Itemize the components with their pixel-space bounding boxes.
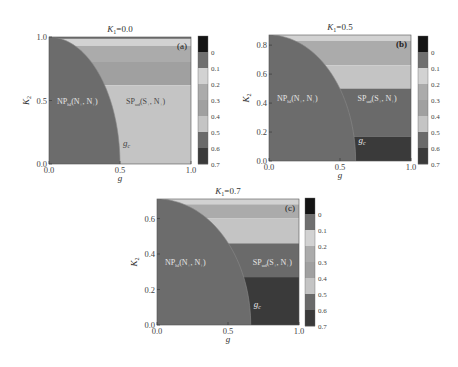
np-phase-label: NPhl(N+, N+) [165, 258, 206, 268]
y-tick-label: 0.4 [144, 249, 155, 259]
colorbar-tick-label: 0.3 [318, 259, 327, 267]
colorbar-segment [198, 148, 208, 164]
sp-phase-label: SPud(S+, N+) [358, 94, 397, 104]
x-axis-label: g [226, 334, 231, 344]
sp-phase-label: SPud(S+, N+) [126, 97, 165, 107]
y-tick-label: 0.2 [144, 285, 155, 295]
panel-label: (b) [396, 39, 407, 49]
panel-c: K1=0.7(c)0.00.51.0g0.00.20.40.6K2NPhl(N+… [129, 186, 327, 344]
colorbar-tick-label: 0.5 [211, 129, 220, 137]
colorbar-tick-label: 0 [431, 49, 435, 57]
colorbar-segment [305, 230, 315, 246]
colorbar-tick-label: 0.4 [211, 113, 220, 121]
colorbar-segment [418, 36, 428, 52]
y-tick-label: 1.0 [36, 32, 47, 42]
sp-phase-label: SPud(S+, N+) [253, 258, 292, 268]
colorbar-tick-label: 0.1 [318, 227, 327, 235]
colorbar-tick-label: 0 [211, 49, 215, 57]
colorbar-segment [418, 116, 428, 132]
colorbar-segment [418, 68, 428, 84]
colorbar-tick-label: 0.1 [211, 65, 220, 73]
colorbar-segment [305, 294, 315, 310]
y-tick-label: 0.8 [256, 40, 267, 50]
x-tick-label: 1.0 [406, 162, 417, 172]
y-tick-label: 0.2 [256, 127, 267, 137]
panel-label: (c) [285, 203, 295, 213]
colorbar-tick-label: 0.4 [318, 275, 327, 283]
colorbar-segment [305, 262, 315, 278]
x-tick-label: 1.0 [294, 326, 305, 336]
colorbar-tick-label: 0.7 [318, 323, 327, 331]
np-phase-label: NPhl(N+, N+) [277, 94, 318, 104]
x-axis-label: g [338, 170, 343, 180]
colorbar-segment [305, 246, 315, 262]
y-tick-label: 0.0 [36, 159, 47, 169]
colorbar-segment [305, 310, 315, 326]
colorbar-tick-label: 0.7 [211, 161, 220, 169]
colorbar-segment [418, 84, 428, 100]
np-phase-label: NPhl(N+, N+) [57, 97, 98, 107]
x-axis-label: g [118, 173, 123, 183]
colorbar-tick-label: 0.2 [318, 243, 327, 251]
panel-title: K1=0.0 [106, 24, 133, 35]
colorbar-segment [418, 132, 428, 148]
panel-title: K1=0.5 [326, 22, 353, 33]
panel-label: (a) [177, 41, 187, 51]
panel-title: K1=0.7 [214, 186, 241, 197]
colorbar-tick-label: 0.7 [431, 161, 440, 169]
colorbar-segment [305, 198, 315, 214]
colorbar-tick-label: 0.3 [431, 97, 440, 105]
colorbar-tick-label: 0.6 [318, 307, 327, 315]
colorbar-tick-label: 0.5 [318, 291, 327, 299]
colorbar-tick-label: 0.6 [431, 145, 440, 153]
y-tick-label: 0.6 [144, 214, 155, 224]
colorbar-segment [198, 132, 208, 148]
panel-a: K1=0.0(a)0.00.51.0g0.00.51.0K2NPhl(N+, N… [21, 24, 220, 183]
colorbar-tick-label: 0 [318, 211, 322, 219]
y-tick-label: 0.5 [36, 96, 47, 106]
colorbar-segment [418, 100, 428, 116]
x-tick-label: 1.0 [186, 165, 197, 175]
colorbar-segment [418, 52, 428, 68]
colorbar-tick-label: 0.4 [431, 113, 440, 121]
colorbar-tick-label: 0.2 [211, 81, 220, 89]
colorbar-segment [418, 148, 428, 164]
y-tick-label: 0.0 [256, 156, 267, 166]
colorbar-tick-label: 0.2 [431, 81, 440, 89]
colorbar-tick-label: 0.5 [431, 129, 440, 137]
colorbar-segment [198, 36, 208, 52]
phase-diagram-figure: K1=0.0(a)0.00.51.0g0.00.51.0K2NPhl(N+, N… [0, 0, 458, 367]
panel-b: K1=0.5(b)0.00.51.0g0.00.20.40.60.8K2NPhl… [241, 22, 440, 180]
colorbar-segment [305, 214, 315, 230]
colorbar-segment [198, 100, 208, 116]
colorbar-segment [198, 52, 208, 68]
colorbar-segment [305, 278, 315, 294]
colorbar-tick-label: 0.6 [211, 145, 220, 153]
y-tick-label: 0.6 [256, 69, 267, 79]
colorbar-segment [198, 68, 208, 84]
y-tick-label: 0.4 [256, 98, 267, 108]
colorbar-segment [198, 116, 208, 132]
colorbar-tick-label: 0.3 [211, 97, 220, 105]
colorbar-tick-label: 0.1 [431, 65, 440, 73]
colorbar-segment [198, 84, 208, 100]
y-tick-label: 0.0 [144, 320, 155, 330]
